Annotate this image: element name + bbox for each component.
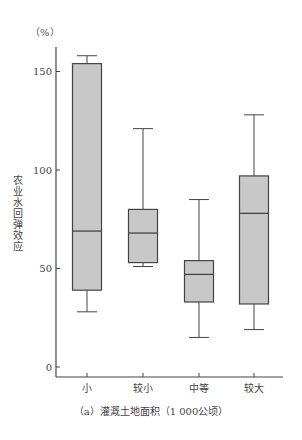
y-tick-label: 50	[39, 263, 52, 274]
box	[185, 261, 214, 302]
x-axis-caption: （a）灌溉土地面积（1 000公顷）	[0, 403, 302, 418]
y-tick-label: 0	[46, 362, 52, 373]
x-tick-label: 较大	[244, 382, 264, 394]
y-tick-label: 150	[33, 66, 52, 77]
x-tick-label: 小	[82, 383, 92, 394]
x-tick-label: 中等	[189, 382, 209, 394]
box	[240, 176, 269, 304]
box	[129, 209, 158, 262]
y-tick-label: 100	[33, 165, 52, 176]
box	[73, 64, 102, 291]
plot-area: 050100150小较小中等较大	[0, 0, 302, 440]
x-tick-label: 较小	[133, 382, 153, 394]
